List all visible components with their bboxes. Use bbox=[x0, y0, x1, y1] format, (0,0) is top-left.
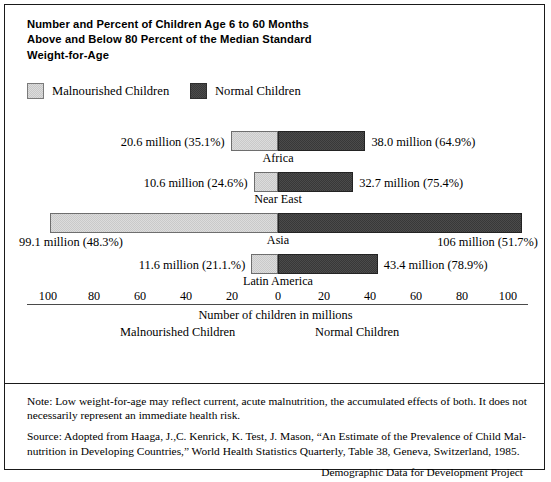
footer-note: Note: Low weight-for-age may reflect cur… bbox=[27, 394, 527, 422]
bar-category-label: Africa bbox=[208, 152, 348, 165]
footer-credit: Demographic Data for Development Project bbox=[27, 465, 527, 479]
bar-value-label-normal: 106 million (51.7%) bbox=[437, 235, 538, 249]
x-tick-label: 60 bbox=[396, 290, 436, 303]
bar-segment-normal bbox=[278, 254, 378, 274]
x-axis-sublabel-right: Normal Children bbox=[315, 325, 399, 340]
bar-segment-normal bbox=[278, 172, 353, 192]
footer-separator bbox=[5, 383, 544, 384]
bar-segment-normal bbox=[278, 213, 522, 233]
bar-segment-malnourished bbox=[254, 172, 278, 192]
bar-segment-malnourished bbox=[50, 213, 278, 233]
footer: Note: Low weight-for-age may reflect cur… bbox=[27, 394, 527, 482]
bar-category-label: Asia bbox=[208, 234, 348, 247]
x-tick-label: 40 bbox=[350, 290, 390, 303]
bar-segment-normal bbox=[278, 131, 365, 151]
x-tick-label: 100 bbox=[488, 290, 528, 303]
x-tick-label: 60 bbox=[120, 290, 160, 303]
x-tick-label: 80 bbox=[74, 290, 114, 303]
bar-value-label-normal: 38.0 million (64.9%) bbox=[371, 135, 475, 149]
x-tick-label: 20 bbox=[212, 290, 252, 303]
x-tick-label: 40 bbox=[166, 290, 206, 303]
x-tick-label: 100 bbox=[28, 290, 68, 303]
bar-value-label-malnourished: 10.6 million (24.6%) bbox=[144, 176, 248, 190]
bar-value-label-malnourished: 11.6 million (21.1.%) bbox=[139, 258, 246, 272]
x-tick-label: 0 bbox=[258, 290, 298, 303]
chart-frame: Number and Percent of Children Age 6 to … bbox=[4, 4, 545, 470]
bar-value-label-malnourished: 20.6 million (35.1%) bbox=[121, 135, 225, 149]
x-axis-caption: Number of children in millions bbox=[5, 308, 546, 323]
bar-value-label-malnourished: 99.1 million (48.3%) bbox=[19, 235, 123, 249]
x-tick-label: 20 bbox=[304, 290, 344, 303]
bar-row bbox=[5, 172, 546, 192]
bar-category-label: Latin America bbox=[208, 275, 348, 288]
x-axis-sublabel-left: Malnourished Children bbox=[120, 325, 235, 340]
bar-segment-malnourished bbox=[251, 254, 278, 274]
bar-segment-malnourished bbox=[231, 131, 278, 151]
footer-source: Source: Adopted from Haaga, J.,C. Kenric… bbox=[27, 429, 527, 457]
bar-row bbox=[5, 213, 546, 233]
bar-category-label: Near East bbox=[208, 193, 348, 206]
bar-value-label-normal: 32.7 million (75.4%) bbox=[359, 176, 463, 190]
x-axis-line bbox=[27, 304, 528, 305]
bar-value-label-normal: 43.4 million (78.9%) bbox=[384, 258, 488, 272]
x-tick-label: 80 bbox=[442, 290, 482, 303]
